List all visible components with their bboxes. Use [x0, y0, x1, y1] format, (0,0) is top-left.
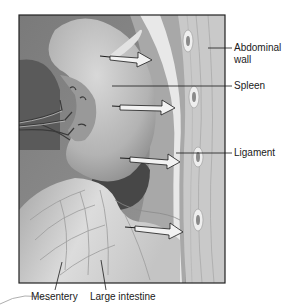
abdominal-wall: [178, 15, 225, 283]
label-large-intestine: Large intestine: [90, 291, 156, 302]
illustration-body: [19, 15, 225, 283]
nodule-core: [196, 215, 200, 225]
nodule-core: [196, 152, 200, 162]
nodule-core: [186, 36, 190, 46]
label-mesentery: Mesentery: [31, 291, 78, 302]
label-spleen: Spleen: [234, 80, 265, 91]
label-abdominal-wall-line2: wall: [234, 54, 251, 65]
label-abdominal-wall-line1: Abdominal: [234, 42, 281, 53]
label-ligament: Ligament: [234, 147, 275, 158]
nodule-core: [192, 92, 196, 102]
